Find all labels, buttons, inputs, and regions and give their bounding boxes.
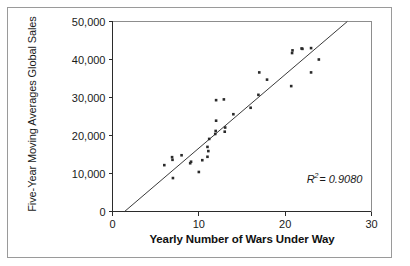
data-point [223,98,226,101]
data-point [201,159,204,162]
x-axis-ticks: 0102030 [109,212,377,230]
data-point [198,171,201,174]
data-point [214,130,217,133]
data-point [266,78,269,81]
y-tick-label: 20,000 [72,130,106,142]
data-point [290,85,293,88]
y-tick-label: 50,000 [72,16,106,28]
data-point [223,130,226,133]
y-tick-label: 0 [99,206,105,218]
y-tick-label: 30,000 [72,92,106,104]
y-tick-label: 40,000 [72,54,106,66]
data-point [257,94,260,97]
x-tick-label: 30 [365,218,377,230]
data-point [310,71,313,74]
data-point [310,47,313,50]
data-point [224,126,227,129]
data-point [171,159,174,162]
y-tick-label: 10,000 [72,168,106,180]
data-point [171,156,174,159]
data-point [291,52,294,55]
data-point [207,150,210,153]
data-point [318,58,321,61]
data-point [172,177,175,180]
data-point [180,154,183,157]
data-point [215,99,218,102]
data-point [190,160,193,163]
data-point [214,133,217,136]
data-point [258,71,261,74]
r-squared-value: = 0.9080 [319,173,363,185]
data-point [291,49,294,52]
data-points [163,47,320,180]
x-tick-label: 0 [109,218,115,230]
data-point [232,113,235,116]
x-tick-label: 20 [279,218,291,230]
data-point [301,48,304,51]
data-point [206,146,209,149]
data-point [163,164,166,167]
data-point [215,119,218,122]
data-point [206,155,209,158]
data-point [208,138,211,141]
figure-container: Five-Year Moving Averages Global Sales Y… [0,0,410,266]
scatter-plot: 010,00020,00030,00040,00050,000 0102030 … [0,0,410,266]
x-tick-label: 10 [193,218,205,230]
r-squared-annotation: R2= 0.9080 [307,171,364,185]
data-point [249,106,252,109]
y-axis-ticks: 010,00020,00030,00040,00050,000 [72,16,113,218]
